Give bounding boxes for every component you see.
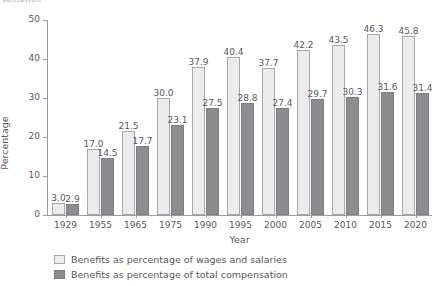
y-axis-tick-mark [43,20,47,21]
bar-value-label: 40.4 [223,47,243,57]
x-axis-tick-label: 2020 [396,219,436,231]
y-axis-tick: 10 [47,176,51,177]
x-axis-tick-label: 1975 [151,219,191,231]
bar-light[interactable]: 37.7 [262,68,275,215]
bar-light[interactable]: 37.9 [192,67,205,215]
bar-value-label: 27.5 [202,98,222,108]
plot-area: 01020304050 3.02.917.014.521.517.730.023… [47,20,432,215]
bar-group: 43.530.3 [332,20,359,215]
bar-value-label: 30.0 [153,88,173,98]
bar-light[interactable]: 42.2 [297,50,310,215]
x-axis-tick-mark [101,215,102,218]
bar-value-label: 17.7 [132,136,152,146]
x-axis-tick-mark [206,215,207,218]
bar-value-label: 31.6 [377,82,397,92]
bar-group: 45.831.4 [402,20,429,215]
chart-legend: Benefits as percentage of wages and sala… [54,252,288,282]
bar-dark[interactable]: 27.4 [276,108,289,215]
bar-light[interactable]: 46.3 [367,34,380,215]
y-axis-tick: 50 [47,20,51,21]
bar-value-label: 14.5 [97,148,117,158]
bar-dark[interactable]: 28.8 [241,103,254,215]
bar-group: 46.331.6 [367,20,394,215]
x-axis-title: Year [47,234,432,245]
legend-item-label: Benefits as percentage of total compensa… [71,269,288,280]
bar-value-label: 37.7 [258,58,278,68]
bar-dark[interactable]: 2.9 [66,204,79,215]
x-axis-tick-label: 1955 [81,219,121,231]
bar-value-label: 28.8 [237,93,257,103]
bar-value-label: 27.4 [272,98,292,108]
bar-light[interactable]: 17.0 [87,149,100,215]
y-axis-tick-mark [43,59,47,60]
legend-swatch-icon [54,255,65,264]
bar-value-label: 23.1 [167,115,187,125]
bar-value-label: 45.8 [398,26,418,36]
bar-value-label: 2.9 [65,194,79,204]
bar-light[interactable]: 43.5 [332,45,345,215]
bar-dark[interactable]: 31.6 [381,92,394,215]
bar-value-label: 46.3 [363,24,383,34]
y-axis-tick-label: 50 [29,14,40,25]
bar-dark[interactable]: 14.5 [101,158,114,215]
bar-group: 17.014.5 [87,20,114,215]
x-axis-tick-mark [346,215,347,218]
x-axis-tick-mark [416,215,417,218]
bar-dark[interactable]: 30.3 [346,97,359,215]
x-axis-tick-mark [171,215,172,218]
y-axis-tick: 0 [47,215,51,216]
y-axis-tick-mark [43,98,47,99]
x-axis-tick-label: 2005 [291,219,331,231]
bar-value-label: 3.0 [51,193,65,203]
legend-item[interactable]: Benefits as percentage of total compensa… [54,267,288,282]
bar-group: 37.727.4 [262,20,289,215]
y-axis-tick-label: 40 [29,53,40,64]
bar-value-label: 37.9 [188,57,208,67]
bar-light[interactable]: 40.4 [227,57,240,215]
bar-light[interactable]: 45.8 [402,36,415,215]
bar-dark[interactable]: 27.5 [206,108,219,215]
legend-item[interactable]: Benefits as percentage of wages and sala… [54,252,288,267]
x-axis-tick-label: 2010 [326,219,366,231]
y-axis-tick: 30 [47,98,51,99]
y-axis-tick: 20 [47,137,51,138]
y-axis-title: Percentage [0,116,10,169]
x-axis-tick-label: 1990 [186,219,226,231]
bar-group: 37.927.5 [192,20,219,215]
x-axis-tick-mark [66,215,67,218]
bar-dark[interactable]: 31.4 [416,93,429,215]
y-axis-tick-mark [43,137,47,138]
x-axis-tick-label: 2000 [256,219,296,231]
bar-group: 40.428.8 [227,20,254,215]
y-axis-tick-label: 20 [29,131,40,142]
bar-group: 30.023.1 [157,20,184,215]
bar-group: 3.02.9 [52,20,79,215]
bar-value-label: 21.5 [118,121,138,131]
bar-dark[interactable]: 17.7 [136,146,149,215]
bar-value-label: 30.3 [342,87,362,97]
x-axis-tick-mark [311,215,312,218]
bar-chart-figure: sentation 01020304050 3.02.917.014.521.5… [0,0,438,286]
x-axis-tick-mark [276,215,277,218]
y-axis-tick-mark [43,215,47,216]
bar-value-label: 42.2 [293,40,313,50]
y-axis-tick-mark [43,176,47,177]
y-axis-tick-label: 0 [34,209,40,220]
x-axis-tick-mark [381,215,382,218]
x-axis-line [47,215,432,216]
y-axis-line [47,20,48,215]
bar-dark[interactable]: 29.7 [311,99,324,215]
bar-value-label: 17.0 [83,139,103,149]
bar-value-label: 43.5 [328,35,348,45]
x-axis-tick-mark [136,215,137,218]
cropped-caption-fragment: sentation [2,0,41,2]
bar-value-label: 31.4 [412,83,432,93]
x-axis-tick-mark [241,215,242,218]
y-axis-tick-label: 10 [29,170,40,181]
bar-dark[interactable]: 23.1 [171,125,184,215]
bar-light[interactable]: 3.0 [52,203,65,215]
y-axis-tick-label: 30 [29,92,40,103]
bar-group: 42.229.7 [297,20,324,215]
legend-swatch-icon [54,270,65,279]
x-axis-tick-label: 2015 [361,219,401,231]
